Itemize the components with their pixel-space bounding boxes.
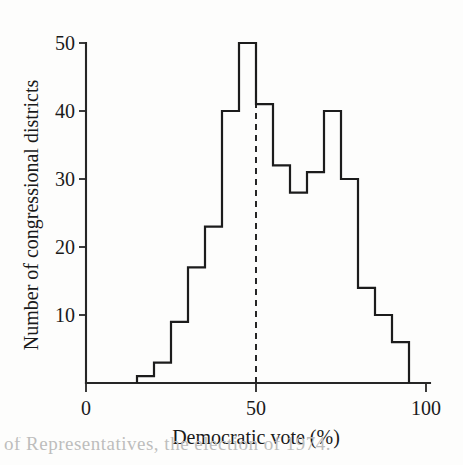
x-axis-ticks bbox=[86, 383, 426, 392]
y-tick-label-50: 50 bbox=[55, 32, 75, 54]
page-caption: of Representatives, the election of 1974… bbox=[0, 437, 463, 465]
y-axis-title: Number of congressional districts bbox=[20, 80, 43, 351]
figure-root: Number of congressional districts 10 20 … bbox=[0, 0, 463, 465]
x-tick-label-100: 100 bbox=[411, 397, 441, 419]
y-tick-label-10: 10 bbox=[55, 304, 75, 326]
y-tick-label-20: 20 bbox=[55, 236, 75, 258]
histogram-outline bbox=[137, 43, 409, 383]
x-tick-label-0: 0 bbox=[81, 397, 91, 419]
y-tick-label-30: 30 bbox=[55, 168, 75, 190]
histogram-chart: Number of congressional districts 10 20 … bbox=[0, 0, 463, 465]
x-tick-label-50: 50 bbox=[246, 397, 266, 419]
caption-text: of Representatives, the election of 1974… bbox=[4, 437, 331, 455]
y-tick-label-40: 40 bbox=[55, 100, 75, 122]
